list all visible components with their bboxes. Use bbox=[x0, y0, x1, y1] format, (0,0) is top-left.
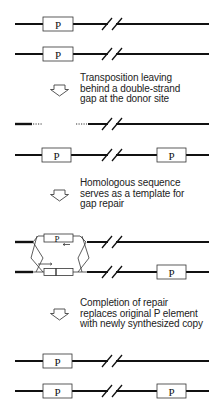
chromosome-row-1b: P bbox=[15, 47, 209, 61]
chromosome-row-1a: P bbox=[15, 17, 209, 31]
caption-line: Completion of repair bbox=[80, 298, 203, 309]
step-3-caption: Completion of repair replaces original P… bbox=[80, 298, 203, 330]
p-element-label: P bbox=[54, 356, 60, 368]
p-element-box-template bbox=[44, 269, 73, 276]
p-element-label: P bbox=[54, 386, 60, 398]
gapped-chromosome-row bbox=[15, 117, 209, 131]
p-element-label: P bbox=[168, 150, 174, 162]
repaired-chromosome-row: P bbox=[15, 354, 209, 368]
caption-line: with newly synthesized copy bbox=[80, 319, 203, 330]
step-2-caption: Homologous sequence serves as a template… bbox=[80, 178, 184, 210]
hollow-down-arrow-icon bbox=[51, 85, 69, 96]
p-element-label: P bbox=[55, 49, 61, 61]
p-element-label: P bbox=[55, 19, 61, 31]
p-element-label: P bbox=[168, 267, 174, 279]
p-element-label: P bbox=[168, 386, 174, 398]
template-chromosome-row-final: P P bbox=[15, 384, 209, 398]
p-element-label: P bbox=[54, 234, 59, 244]
caption-line: Transposition leaving bbox=[80, 73, 180, 84]
hollow-down-arrow-icon bbox=[51, 309, 69, 320]
caption-line: Homologous sequence bbox=[80, 178, 184, 189]
p-element-label: P bbox=[53, 150, 59, 162]
hollow-down-arrow-icon bbox=[51, 190, 69, 201]
step-1-caption: Transposition leaving behind a double-st… bbox=[80, 73, 180, 105]
caption-line: gap repair bbox=[80, 199, 184, 210]
repair-intermediate: P P bbox=[15, 234, 209, 280]
caption-line: gap at the donor site bbox=[80, 94, 180, 105]
homolog-chromosome-row: P P bbox=[15, 148, 209, 162]
